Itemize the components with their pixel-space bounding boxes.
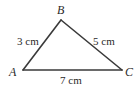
side-label-bc: 5 cm: [93, 35, 115, 47]
vertex-label-b: B: [57, 3, 65, 17]
triangle-diagram: A B C 3 cm 5 cm 7 cm: [0, 0, 139, 85]
side-label-ac: 7 cm: [60, 74, 82, 85]
vertex-label-a: A: [8, 65, 17, 79]
vertex-label-c: C: [125, 65, 134, 79]
side-label-ab: 3 cm: [17, 35, 39, 47]
